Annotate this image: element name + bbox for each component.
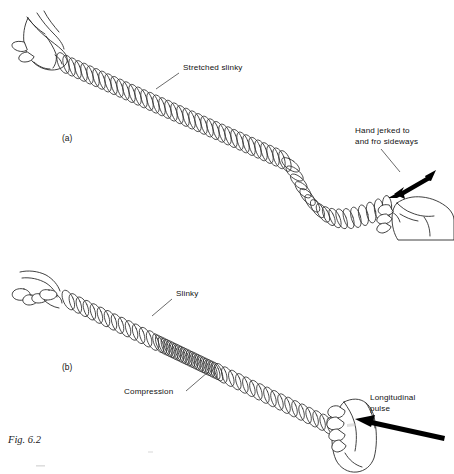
slinky-coil <box>62 290 75 310</box>
slinky-coil <box>111 314 124 334</box>
scan-artifact <box>36 465 45 467</box>
figure-canvas: Stretched slinky Hand jerked to and fro … <box>0 0 454 474</box>
figure-caption: Fig. 6.2 <box>7 434 42 445</box>
slinky-coil <box>243 377 256 397</box>
double-headed-arrow <box>388 170 436 199</box>
slinky-coil <box>285 397 298 417</box>
slinky-coil <box>343 209 354 229</box>
slinky-coil <box>125 321 138 341</box>
left-hand-holding-slinky <box>12 271 62 308</box>
slinky-coil <box>236 374 249 394</box>
slinky-coil <box>257 384 270 404</box>
physics-figure: Stretched slinky Hand jerked to and fro … <box>0 0 454 474</box>
panel-b-marker: (b) <box>62 362 72 372</box>
leader-hand-jerked <box>381 149 400 172</box>
slinky-coils-a <box>57 53 392 229</box>
leader-compression <box>186 372 208 391</box>
slinky-coil <box>286 166 303 181</box>
hand-jerked-label: Hand jerked to and fro sideways <box>355 126 418 146</box>
right-hand-pushing-slinky <box>327 399 377 472</box>
panel-b: Slinky Compression Longitudinal pulse (b… <box>12 271 445 472</box>
slinky-coil <box>292 401 305 421</box>
leader-stretched-slinky <box>156 73 179 89</box>
slinky-label: Slinky <box>176 289 199 298</box>
slinky-coil <box>139 327 152 347</box>
longitudinal-pulse-label: Longitudinal pulse <box>370 393 418 413</box>
panel-a-marker: (a) <box>62 133 72 143</box>
leader-slinky <box>152 299 172 316</box>
stretched-slinky-label: Stretched slinky <box>183 63 243 72</box>
slinky-coil <box>336 209 348 229</box>
slinky-coil <box>264 387 277 407</box>
slinky-coil <box>313 411 326 431</box>
slinky-coil <box>229 370 242 390</box>
slinky-coil <box>97 307 110 327</box>
left-hand-gripping-slinky <box>12 11 67 70</box>
right-hand-jerking-slinky <box>377 197 454 240</box>
slinky-coil <box>306 407 319 427</box>
slinky-coils-b <box>62 290 346 440</box>
scan-artifact-2 <box>148 451 153 453</box>
slinky-coil <box>299 404 312 424</box>
slinky-coil <box>278 394 291 414</box>
panel-a: Stretched slinky Hand jerked to and fro … <box>12 11 454 240</box>
slinky-coil <box>132 324 145 344</box>
slinky-coil <box>83 300 96 320</box>
slinky-coil <box>69 294 82 314</box>
slinky-coil <box>90 304 103 324</box>
slinky-coil <box>215 364 228 384</box>
slinky-coil <box>250 380 263 400</box>
slinky-coil <box>222 367 235 387</box>
slinky-coil <box>76 297 89 317</box>
slinky-coil <box>118 317 131 337</box>
slinky-coil <box>271 391 284 411</box>
compression-label: Compression <box>124 387 173 396</box>
slinky-coil <box>104 311 117 331</box>
